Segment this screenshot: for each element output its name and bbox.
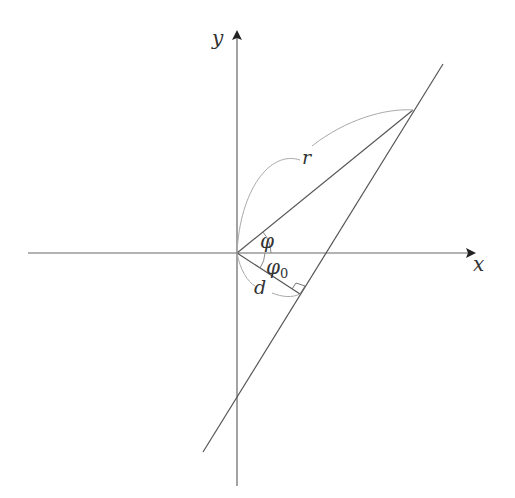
y-axis-label: y bbox=[211, 26, 224, 50]
angle-phi0-label: φ0 bbox=[266, 255, 288, 281]
angle-phi0-arc bbox=[260, 253, 265, 268]
line-L bbox=[203, 64, 443, 452]
polar-line-diagram: y x r φ φ0 d bbox=[0, 0, 515, 498]
angle-phi-label: φ bbox=[260, 229, 274, 253]
distance-label: d bbox=[254, 276, 266, 298]
angle-phi0-subscript: 0 bbox=[280, 266, 288, 281]
x-axis-label: x bbox=[473, 252, 484, 276]
radius-label: r bbox=[302, 146, 313, 168]
